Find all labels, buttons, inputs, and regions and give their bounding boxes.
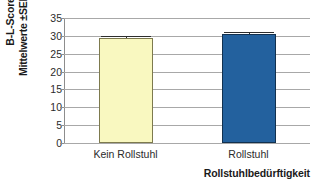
bar-1 [222,34,276,143]
y-axis-tick-label: 15 [38,84,62,95]
bar-0 [99,38,153,143]
y-axis-tick-label: 35 [38,13,62,24]
y-axis-tick-mark [60,36,64,37]
x-axis-category-label: Rollstuhl [187,148,310,160]
error-bar-stem [126,36,127,38]
y-axis-tick-labels: 05101520253035 [38,0,62,160]
y-axis-tick-mark [60,107,64,108]
y-axis-tick-label: 20 [38,66,62,77]
gridline [64,143,310,144]
y-axis-tick-label: 25 [38,48,62,59]
y-axis-tick-label: 10 [38,102,62,113]
x-axis-title: Rollstuhlbedürftigkeit [204,167,310,179]
y-axis-tick-label: 5 [38,120,62,131]
y-axis-title-line-2: Mittelwerte ±SEM [17,0,30,99]
y-axis-tick-mark [60,18,64,19]
y-axis-tick-mark [60,89,64,90]
y-axis-tick-mark [60,143,64,144]
y-axis-title-line-1: B-L-Score [4,0,17,76]
error-bar-stem [249,32,250,34]
y-axis-tick-label: 0 [38,138,62,149]
plot-area [64,18,310,143]
y-axis-tick-mark [60,125,64,126]
y-axis-tick-mark [60,54,64,55]
error-bar-0 [101,36,151,38]
x-axis-category-labels: Kein RollstuhlRollstuhl [64,148,310,164]
y-axis-tick-label: 30 [38,30,62,41]
bar-chart-figure: B-L-Score Mittelwerte ±SEM 0510152025303… [0,0,326,188]
y-axis-title-group: B-L-Score Mittelwerte ±SEM [0,0,42,150]
x-axis-category-label: Kein Rollstuhl [64,148,187,160]
gridline [64,18,310,19]
error-bar-1 [224,32,274,34]
y-axis-tick-mark [60,72,64,73]
